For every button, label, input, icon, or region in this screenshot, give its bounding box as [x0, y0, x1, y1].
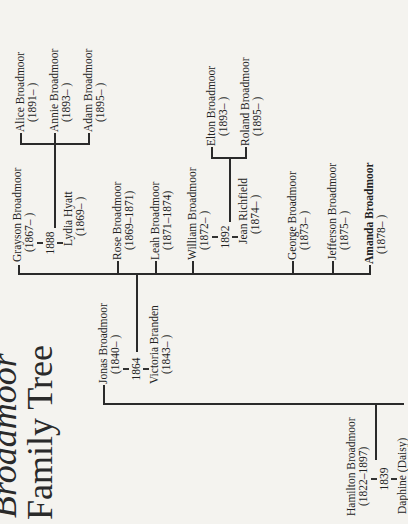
tick-jefferson: [332, 261, 334, 275]
person-jonas: Jonas Broadmoor (1840– ): [97, 303, 121, 384]
tick-george: [292, 261, 294, 275]
connector-william-children: [211, 157, 247, 159]
marriage-bar: [123, 368, 129, 370]
connector-jonas-stem: [136, 274, 138, 352]
person-william: William Broadmoor (1872– ): [186, 168, 210, 260]
person-victoria: Victoria Branden (1843– ): [148, 305, 172, 384]
person-alice: Alice Broadmoor (1891– ): [14, 52, 38, 132]
connector-william-stem: [229, 158, 231, 222]
marriage-1888: 1888: [36, 228, 64, 258]
person-lydia: Lydia Hyatt (1869– ): [62, 191, 86, 246]
connector-hamilton-stem: [375, 404, 377, 460]
person-daphine: Daphine (Daisy): [396, 438, 408, 514]
title-line-2: Family Tree: [20, 345, 60, 520]
page-title-line-2: Family Tree: [22, 345, 58, 520]
person-george: George Broadmoor (1873– ): [286, 171, 310, 260]
person-jean: Jean Richfield (1874– ): [237, 178, 261, 244]
connector-grayson-stem: [54, 144, 56, 228]
marriage-bar: [37, 242, 43, 244]
tick-adam: [88, 133, 90, 145]
tick-rose: [117, 261, 119, 275]
tick-leah: [155, 261, 157, 275]
marriage-1839: 1839: [370, 464, 398, 494]
tick-annie: [54, 133, 56, 145]
person-leah: Leah Broadmoor (1871–1874): [149, 182, 173, 260]
connector-hamilton-children: [103, 403, 404, 405]
person-amanda: Amanda Broadmoor (1878– ): [363, 162, 387, 264]
tick-elton: [211, 147, 213, 159]
tick-william: [192, 261, 194, 275]
person-jefferson: Jefferson Broadmoor (1875– ): [326, 163, 350, 260]
page-title: Broadmoor: [0, 353, 22, 518]
tick-amanda: [369, 265, 371, 275]
person-elton: Elton Broadmoor (1893– ): [205, 66, 229, 146]
person-grayson: Grayson Broadmoor (1867– ): [11, 168, 35, 262]
tick-alice: [20, 133, 22, 145]
person-annie: Annie Broadmoor (1893– ): [48, 49, 72, 132]
marriage-1864: 1864: [122, 354, 150, 384]
marriage-bar: [371, 478, 377, 480]
connector-jonas-tick: [103, 385, 105, 405]
tick-grayson: [18, 265, 20, 275]
person-roland: Roland Broadmoor (1895– ): [239, 58, 263, 146]
person-rose: Rose Broadmoor (1869–1871): [111, 182, 135, 260]
connector-jonas-children: [18, 273, 371, 275]
person-hamilton: Hamilton Broadmoor (1822–1897): [345, 417, 369, 516]
marriage-1892: 1892: [211, 222, 239, 252]
tick-roland: [245, 147, 247, 159]
person-adam: Adam Broadmoor (1895– ): [82, 49, 106, 132]
marriage-bar: [212, 236, 218, 238]
